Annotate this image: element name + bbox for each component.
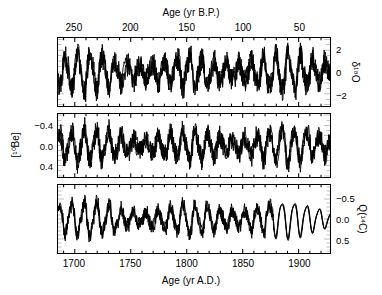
bottom-tick-label: 1750 [119,258,141,269]
top-tick-label: 200 [122,22,139,33]
data-series-d18o-3 [58,44,330,102]
ylabel-be10: [¹⁰Be] [10,132,21,157]
panel-d18o [57,37,331,107]
bottom-tick-label: 1800 [176,258,198,269]
y-tick-label: 0.0 [336,214,349,225]
bottom-axis-title: Age (yr A.D.) [0,275,382,286]
ylabel-q14c: Q(¹⁴C) [357,204,368,233]
bottom-tick-label: 1850 [232,258,254,269]
top-tick-label: 150 [178,22,195,33]
panel-be10 [57,113,331,178]
ylabel-be10-text: [¹⁰Be] [10,132,21,157]
y-tick-label: −0.4 [34,119,53,130]
top-tick-label: 100 [235,22,252,33]
data-series-be10-3 [58,117,330,173]
panel-q14c [57,184,331,254]
y-tick-label: 0 [336,67,341,78]
top-axis-title: Age (yr B.P.) [0,7,382,18]
plot-area-be10 [58,114,330,177]
top-tick-label: 50 [294,22,305,33]
ylabel-q14c-text: Q(¹⁴C) [357,204,368,233]
y-tick-label: −0.5 [336,193,355,204]
plot-area-q14c [58,185,330,253]
ylabel-d18o-text: δ¹⁸O [350,62,361,83]
y-tick-label: 0.4 [40,161,53,172]
bottom-tick-label: 1700 [63,258,85,269]
figure-3panel-solar-proxies: Age (yr B.P.) 25020015010050 20−2−0.40.0… [0,0,382,295]
y-tick-label: −2 [336,89,347,100]
top-tick-label: 250 [66,22,83,33]
plot-area-d18o [58,38,330,106]
ylabel-d18o: δ¹⁸O [350,62,361,83]
y-tick-label: 2 [336,44,341,55]
y-tick-label: 0.0 [40,140,53,151]
y-tick-label: 0.5 [336,234,349,245]
bottom-tick-label: 1900 [288,258,310,269]
